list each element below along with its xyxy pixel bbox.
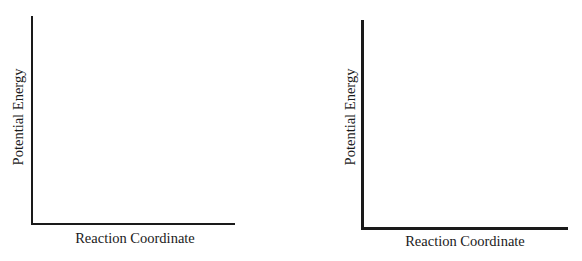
right-energy-diagram: Potential Energy Reaction Coordinate [0,0,582,261]
right-x-axis-line [361,227,568,230]
right-y-axis-label: Potential Energy [342,69,359,166]
right-x-axis-label: Reaction Coordinate [405,233,525,250]
right-y-axis-line [361,20,364,230]
